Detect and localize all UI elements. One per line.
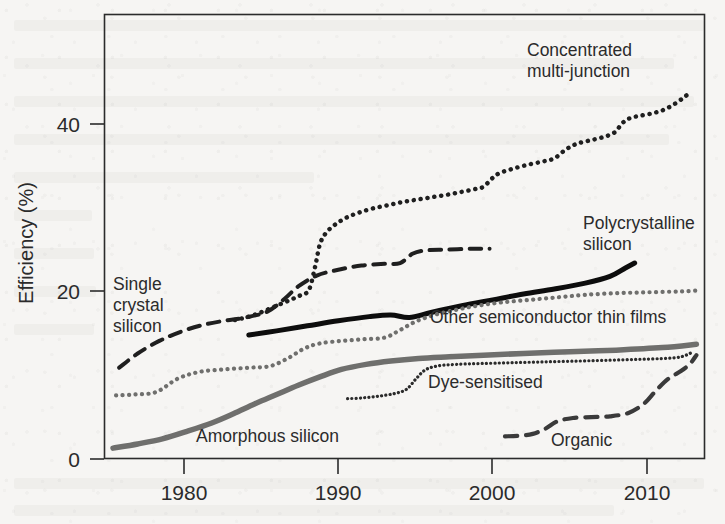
x-tick-label-1980: 1980 (161, 481, 208, 504)
label-single-line2: crystal (113, 295, 164, 315)
series-organic (505, 355, 696, 436)
label-concentrated-line2: multi-junction (527, 61, 630, 81)
x-tick-label-1990: 1990 (315, 481, 362, 504)
y-tick-label-0: 0 (68, 448, 80, 471)
efficiency-chart: 0 20 40 1980 1990 2000 2010 Efficiency (… (0, 0, 725, 524)
x-tick-label-2000: 2000 (469, 481, 516, 504)
series-concentrated-multi-junction (235, 91, 692, 320)
label-amorphous: Amorphous silicon (196, 426, 339, 446)
label-polycrystalline-line1: Polycrystalline (583, 213, 695, 233)
y-axis-ticks (90, 124, 104, 459)
label-single-line1: Single (113, 274, 162, 294)
x-axis-ticks (184, 459, 647, 474)
y-tick-label-20: 20 (57, 280, 80, 303)
y-axis-title: Efficiency (%) (15, 182, 37, 304)
series-layer (113, 91, 696, 448)
label-other-thin-films: Other semiconductor thin films (430, 307, 667, 327)
label-polycrystalline-line2: silicon (583, 234, 632, 254)
y-tick-label-40: 40 (57, 113, 80, 136)
figure-page: 0 20 40 1980 1990 2000 2010 Efficiency (… (0, 0, 725, 524)
label-concentrated-line1: Concentrated (527, 40, 632, 60)
label-single-line3: silicon (113, 316, 162, 336)
label-dye-sensitised: Dye-sensitised (428, 372, 543, 392)
x-tick-label-2010: 2010 (624, 481, 671, 504)
label-organic: Organic (551, 430, 613, 450)
